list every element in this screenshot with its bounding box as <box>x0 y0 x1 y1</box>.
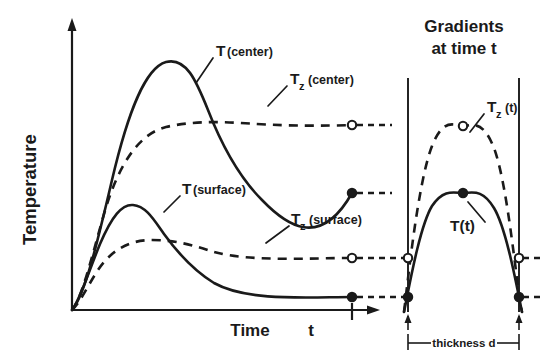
right-panel-title-line2: at time t <box>431 39 497 58</box>
label-tz-t: T z (t) <box>487 98 518 120</box>
label-tz-center-sub: z <box>299 80 305 92</box>
label-tz-surface-sub: z <box>300 220 306 232</box>
right-panel-title-line1: Gradients <box>424 17 503 36</box>
curve-tz-surface <box>72 240 352 310</box>
dim-arrowhead-right-up <box>516 314 523 323</box>
marker-t-center-endpoint <box>348 189 356 197</box>
label-t-t: T(t) <box>450 217 475 234</box>
label-t-surface-main: T <box>182 180 192 197</box>
curve-t-t <box>404 192 522 312</box>
thickness-dimension: thickness d <box>405 314 523 350</box>
label-tz-center-paren: (center) <box>308 73 354 87</box>
marker-tz-t-peak <box>459 122 467 130</box>
label-tz-center: T z (center) <box>290 70 354 92</box>
figure-canvas: Temperature Time t T (center) T z (cente… <box>0 0 550 357</box>
label-tz-surface: T z (surface) <box>291 210 362 232</box>
y-axis-arrowhead <box>68 18 77 31</box>
label-tz-t-sub: z <box>496 108 502 120</box>
marker-t-t-peak <box>459 189 467 197</box>
label-t-center: T (center) <box>216 42 273 59</box>
x-axis-tick-label-t: t <box>308 321 314 340</box>
label-t-surface: T (surface) <box>182 180 246 197</box>
label-tz-t-paren: (t) <box>505 101 518 115</box>
label-tz-surface-paren: (surface) <box>309 213 362 227</box>
y-axis-label: Temperature <box>19 134 40 245</box>
leader-t-surface <box>164 196 180 212</box>
label-t-surface-paren: (surface) <box>193 183 246 197</box>
label-t-center-main: T <box>216 42 226 59</box>
label-t-center-paren: (center) <box>227 45 273 59</box>
right-panel-markers <box>404 122 523 301</box>
dim-arrowhead-left-up <box>405 314 412 323</box>
marker-t-right-edge <box>515 293 523 301</box>
marker-t-surface-endpoint <box>348 293 356 301</box>
leader-t-center <box>196 58 213 83</box>
leader-tz-surface <box>266 226 289 243</box>
x-axis-arrowhead <box>367 306 380 315</box>
marker-tz-surface-endpoint <box>348 254 356 262</box>
marker-tz-right-edge <box>515 254 523 262</box>
thickness-label: thickness d <box>432 337 495 349</box>
leader-tz-center <box>268 86 287 106</box>
diagram-svg: Temperature Time t T (center) T z (cente… <box>0 0 550 357</box>
marker-t-left-edge <box>404 293 412 301</box>
right-panel-title: Gradients at time t <box>424 17 503 58</box>
x-axis-label: Time <box>230 321 269 340</box>
left-panel-markers <box>348 121 356 301</box>
marker-tz-center-endpoint <box>348 121 356 129</box>
marker-tz-left-edge <box>404 254 412 262</box>
